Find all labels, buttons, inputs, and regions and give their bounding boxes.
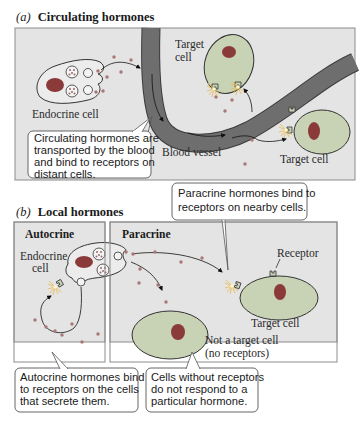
target-cell-right-label: Target cell bbox=[280, 153, 328, 166]
callout-paracrine-line-1: Paracrine hormones bind to bbox=[178, 187, 315, 199]
paracrine-title: Paracrine bbox=[122, 228, 171, 240]
svg-text:(b) Local hormones: (b) Local hormones bbox=[16, 205, 124, 219]
svg-text:(a) Circulating hormones: (a) Circulating hormones bbox=[16, 10, 155, 24]
panel-a-letter: (a) bbox=[16, 10, 31, 24]
blood-vessel-label: Blood vessel bbox=[162, 146, 221, 158]
panel-b-heading: (b) Local hormones bbox=[16, 205, 124, 219]
panel-a-heading: (a) Circulating hormones bbox=[16, 10, 155, 24]
non-target-label-1: Not a target cell bbox=[205, 334, 279, 347]
endocrine-cell-label: Endocrine cell bbox=[32, 108, 99, 120]
autocrine-title: Autocrine bbox=[25, 228, 74, 240]
callout-circulating-line-4: distant cells. bbox=[34, 168, 96, 180]
callout-circulating-line-3: and bind to receptors on bbox=[34, 156, 155, 168]
callout-no-receptors-line-1: Cells without receptors bbox=[151, 371, 265, 383]
non-target-label-2: (no receptors) bbox=[205, 347, 269, 360]
callout-paracrine-line-2: receptors on nearby cells. bbox=[178, 201, 306, 213]
panel-b-letter: (b) bbox=[16, 205, 31, 219]
non-target-cell bbox=[132, 311, 208, 359]
panel-b-title: Local hormones bbox=[38, 205, 124, 219]
paracrine-target-label: Target cell bbox=[251, 317, 299, 330]
callout-circulating-line-1: Circulating hormones are bbox=[34, 132, 159, 144]
callout-autocrine: Autocrine hormones bind to receptors on … bbox=[15, 352, 144, 412]
callout-autocrine-line-1: Autocrine hormones bind bbox=[20, 371, 144, 383]
target-cell-top-label-2: cell bbox=[175, 51, 192, 63]
target-cell-top-label-1: Target bbox=[175, 38, 205, 51]
callout-autocrine-line-3: that secrete them. bbox=[20, 395, 110, 407]
callout-autocrine-line-2: to receptors on the cells bbox=[20, 383, 139, 395]
callout-circulating-line-2: transported by the blood bbox=[34, 144, 155, 156]
callout-no-receptors-line-2: do not respond to a bbox=[151, 383, 248, 395]
receptor-label: Receptor bbox=[277, 247, 319, 260]
callout-no-receptors-line-3: particular hormone. bbox=[151, 395, 247, 407]
callout-no-receptors: Cells without receptors do not respond t… bbox=[146, 352, 265, 412]
panel-a-title: Circulating hormones bbox=[38, 10, 155, 24]
autocrine-endocrine-label-2: cell bbox=[32, 262, 49, 274]
autocrine-endocrine-label-1: Endocrine bbox=[20, 250, 67, 262]
callout-paracrine: Paracrine hormones bind to receptors on … bbox=[172, 183, 315, 220]
hormone-signaling-diagram: (a) Circulating hormones Endocrine cell bbox=[0, 0, 361, 426]
